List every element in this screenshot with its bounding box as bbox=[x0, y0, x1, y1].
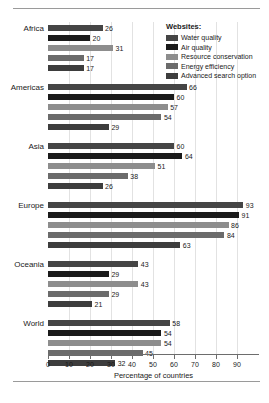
bar-value-label: 66 bbox=[189, 84, 197, 91]
bar-value-label: 29 bbox=[111, 271, 119, 278]
bar-value-label: 58 bbox=[172, 320, 180, 327]
x-axis-tick bbox=[48, 355, 49, 359]
bar-value-label: 38 bbox=[130, 173, 138, 180]
x-axis-tick bbox=[153, 355, 154, 359]
bar bbox=[48, 65, 84, 71]
bar bbox=[48, 163, 155, 169]
x-axis-tick-label: 20 bbox=[80, 360, 100, 369]
bar bbox=[48, 104, 168, 110]
x-axis-tick bbox=[216, 355, 217, 359]
x-axis-tick-label: 90 bbox=[227, 360, 247, 369]
legend-title: Websites: bbox=[166, 22, 266, 31]
bar bbox=[48, 143, 174, 149]
bar-value-label: 17 bbox=[86, 65, 94, 72]
bar bbox=[48, 153, 182, 159]
bar-value-label: 26 bbox=[105, 183, 113, 190]
bar bbox=[48, 173, 128, 179]
x-axis-tick-label: 60 bbox=[164, 360, 184, 369]
legend-swatch bbox=[166, 54, 178, 60]
bar bbox=[48, 301, 92, 307]
legend-label: Resource conservation bbox=[181, 52, 253, 61]
bar bbox=[48, 271, 109, 277]
x-axis-tick bbox=[111, 355, 112, 359]
bar bbox=[48, 94, 174, 100]
bar bbox=[48, 45, 113, 51]
x-axis-tick-label: 80 bbox=[206, 360, 226, 369]
bar bbox=[48, 340, 161, 346]
bar-value-label: 54 bbox=[164, 340, 172, 347]
bar-value-label: 93 bbox=[246, 202, 254, 209]
bar-value-label: 51 bbox=[158, 163, 166, 170]
bar bbox=[48, 261, 138, 267]
top-divider bbox=[13, 8, 260, 9]
category-labels: AfricaAmericasAsiaEuropeOceaniaWorld bbox=[0, 22, 44, 354]
bar bbox=[48, 222, 229, 228]
bar-value-label: 57 bbox=[170, 104, 178, 111]
legend-item[interactable]: Resource conservation bbox=[166, 52, 266, 61]
bar bbox=[48, 212, 239, 218]
x-axis-tick-label: 70 bbox=[185, 360, 205, 369]
bar bbox=[48, 183, 103, 189]
bar-value-label: 86 bbox=[231, 222, 239, 229]
bar bbox=[48, 84, 187, 90]
bar bbox=[48, 291, 109, 297]
x-axis-title: Percentage of countries bbox=[48, 371, 259, 380]
bar bbox=[48, 35, 90, 41]
legend-item[interactable]: Air quality bbox=[166, 43, 266, 52]
x-axis-tick bbox=[90, 355, 91, 359]
bar-value-label: 20 bbox=[93, 35, 101, 42]
legend-label: Advanced search option bbox=[181, 71, 256, 80]
bar-value-label: 84 bbox=[227, 232, 235, 239]
legend-swatch bbox=[166, 35, 178, 41]
bar-value-label: 60 bbox=[177, 143, 185, 150]
x-axis-tick bbox=[195, 355, 196, 359]
category-label: World bbox=[23, 319, 44, 328]
bar-value-label: 29 bbox=[111, 124, 119, 131]
x-axis-tick bbox=[237, 355, 238, 359]
bar-value-label: 26 bbox=[105, 25, 113, 32]
category-label: Oceania bbox=[14, 260, 44, 269]
bar-value-label: 31 bbox=[116, 45, 124, 52]
legend-label: Air quality bbox=[181, 43, 212, 52]
bar-value-label: 91 bbox=[242, 212, 250, 219]
x-axis-tick-label: 10 bbox=[59, 360, 79, 369]
bar-value-label: 17 bbox=[86, 55, 94, 62]
x-axis-tick-label: 40 bbox=[122, 360, 142, 369]
legend-swatch bbox=[166, 73, 178, 79]
category-label: Europe bbox=[18, 201, 44, 210]
category-label: Asia bbox=[28, 142, 44, 151]
bar bbox=[48, 114, 161, 120]
category-label: Americas bbox=[11, 83, 44, 92]
bar-value-label: 64 bbox=[185, 153, 193, 160]
x-axis-tick-label: 50 bbox=[143, 360, 163, 369]
bar-value-label: 21 bbox=[95, 301, 103, 308]
bar bbox=[48, 281, 138, 287]
legend-item[interactable]: Water quality bbox=[166, 33, 266, 42]
bar bbox=[48, 330, 161, 336]
legend-swatch bbox=[166, 63, 178, 69]
legend-label: Water quality bbox=[181, 33, 222, 42]
bar bbox=[48, 25, 103, 31]
chart-figure: AfricaAmericasAsiaEuropeOceaniaWorld 262… bbox=[0, 0, 269, 403]
bar-value-label: 63 bbox=[183, 242, 191, 249]
legend-items: Water qualityAir qualityResource conserv… bbox=[166, 33, 266, 80]
bar-value-label: 45 bbox=[145, 350, 153, 357]
legend-item[interactable]: Energy efficiency bbox=[166, 62, 266, 71]
bar-value-label: 54 bbox=[164, 114, 172, 121]
x-axis-tick-label: 0 bbox=[38, 360, 58, 369]
bar bbox=[48, 320, 170, 326]
legend-label: Energy efficiency bbox=[181, 62, 234, 71]
bar bbox=[48, 124, 109, 130]
bar-value-label: 43 bbox=[141, 281, 149, 288]
x-axis-tick bbox=[69, 355, 70, 359]
x-axis-tick bbox=[174, 355, 175, 359]
bar bbox=[48, 232, 224, 238]
legend-swatch bbox=[166, 44, 178, 50]
bar-value-label: 43 bbox=[141, 261, 149, 268]
bottom-divider bbox=[13, 381, 260, 382]
chart-legend: Websites: Water qualityAir qualityResour… bbox=[166, 22, 266, 81]
x-axis-tick-label: 30 bbox=[101, 360, 121, 369]
category-label: Africa bbox=[24, 24, 44, 33]
bar-value-label: 29 bbox=[111, 291, 119, 298]
legend-item[interactable]: Advanced search option bbox=[166, 71, 266, 80]
